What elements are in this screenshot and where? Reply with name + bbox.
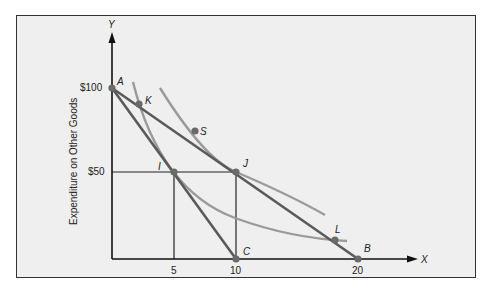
y-tick-50: $50 bbox=[88, 166, 105, 177]
label-b: B bbox=[364, 243, 371, 254]
point-c bbox=[232, 255, 239, 262]
x-tick-10: 10 bbox=[230, 265, 242, 276]
x-axis-arrow-icon bbox=[407, 256, 418, 263]
label-j: J bbox=[242, 158, 249, 169]
label-k: K bbox=[145, 95, 153, 106]
label-l: L bbox=[335, 224, 341, 235]
point-l bbox=[331, 236, 338, 243]
diagram-canvas: Y X Expenditure on Other Goods $100 $50 … bbox=[0, 0, 485, 294]
point-a bbox=[108, 84, 115, 91]
y-axis-title: Expenditure on Other Goods bbox=[68, 98, 79, 225]
y-axis-arrow-icon bbox=[109, 32, 116, 43]
label-a: A bbox=[116, 76, 124, 87]
x-tick-20: 20 bbox=[352, 265, 364, 276]
label-c: C bbox=[243, 246, 251, 257]
point-k bbox=[135, 100, 142, 107]
point-b bbox=[354, 255, 361, 262]
y-tick-100: $100 bbox=[80, 82, 103, 93]
point-s bbox=[191, 127, 198, 134]
point-i bbox=[170, 168, 177, 175]
x-axis-label: X bbox=[420, 254, 428, 265]
label-i: I bbox=[158, 161, 161, 172]
reference-lines bbox=[112, 172, 236, 259]
x-tick-5: 5 bbox=[171, 265, 177, 276]
indifference-curve-upper bbox=[160, 88, 325, 215]
y-axis-label: Y bbox=[108, 19, 116, 30]
point-j bbox=[232, 168, 239, 175]
label-s: S bbox=[200, 126, 207, 137]
